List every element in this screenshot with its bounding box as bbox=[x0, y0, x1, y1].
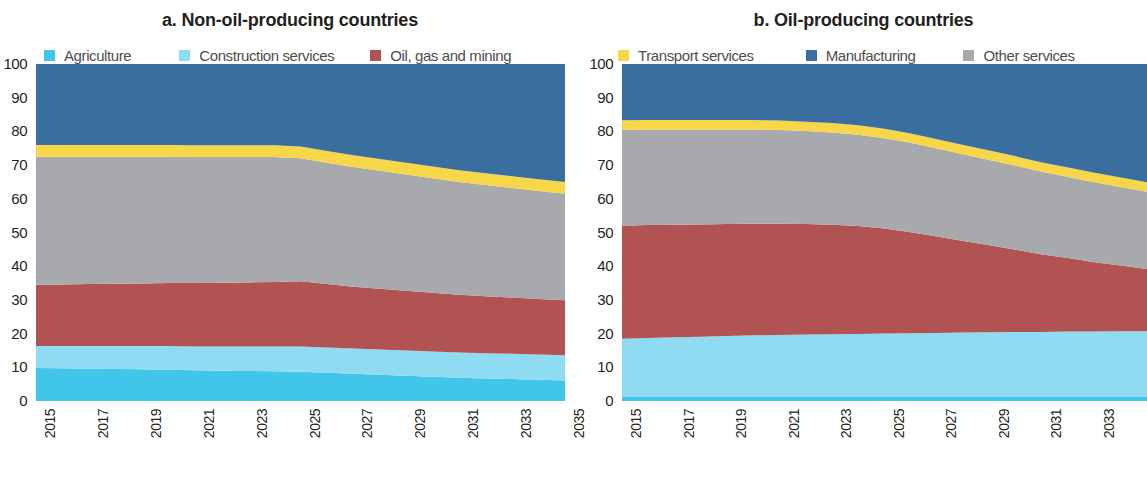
legend-item-construction-services: Construction services bbox=[179, 47, 334, 64]
y-tick-label: 50 bbox=[11, 228, 27, 238]
legend-swatch-transport-services bbox=[618, 50, 629, 61]
y-tick-label: 100 bbox=[3, 59, 27, 69]
x-tick-label: 2015 bbox=[42, 409, 58, 438]
stacked-area-svg bbox=[622, 64, 1147, 401]
legend-item-oil-gas-and-mining: Oil, gas and mining bbox=[370, 47, 511, 64]
legend-swatch-other-services bbox=[963, 50, 974, 61]
x-tick-label: 2033 bbox=[1101, 409, 1117, 438]
x-tick-label: 2021 bbox=[201, 409, 217, 438]
panel-b-oil-producing: b. Oil-producing countries Transport ser… bbox=[580, 0, 1147, 504]
figure-container: a. Non-oil-producing countries Agricultu… bbox=[0, 0, 1147, 504]
y-tick-label: 80 bbox=[597, 126, 613, 136]
y-tick-label: 30 bbox=[11, 295, 27, 305]
panel-a-legend: AgricultureConstruction servicesOil, gas… bbox=[0, 34, 580, 64]
panel-b-x-axis: 2015201720192021202320252027202920312033… bbox=[622, 405, 1147, 465]
y-tick-label: 80 bbox=[11, 126, 27, 136]
y-tick-label: 90 bbox=[11, 93, 27, 103]
y-tick-label: 60 bbox=[11, 194, 27, 204]
x-tick-label: 2029 bbox=[412, 409, 428, 438]
x-tick-label: 2021 bbox=[786, 409, 802, 438]
x-tick-label: 2027 bbox=[359, 409, 375, 438]
legend-item-other-services: Other services bbox=[963, 47, 1074, 64]
y-tick-label: 20 bbox=[11, 329, 27, 339]
x-tick-label: 2025 bbox=[307, 409, 323, 438]
x-tick-label: 2019 bbox=[733, 409, 749, 438]
panel-b-y-axis: 0102030405060708090100 bbox=[586, 64, 618, 401]
x-tick-label: 2023 bbox=[254, 409, 270, 438]
legend-swatch-agriculture bbox=[44, 50, 55, 61]
x-tick-label: 2027 bbox=[943, 409, 959, 438]
x-tick-label: 2031 bbox=[465, 409, 481, 438]
x-tick-label: 2023 bbox=[838, 409, 854, 438]
panel-b-legend: Transport servicesManufacturingOther ser… bbox=[580, 34, 1147, 64]
legend-item-transport-services: Transport services bbox=[618, 47, 754, 64]
area-agriculture bbox=[622, 397, 1147, 401]
legend-label-manufacturing: Manufacturing bbox=[826, 47, 916, 64]
legend-label-transport-services: Transport services bbox=[638, 47, 754, 64]
x-tick-label: 2017 bbox=[681, 409, 697, 438]
y-tick-label: 0 bbox=[19, 396, 27, 406]
x-tick-label: 2029 bbox=[996, 409, 1012, 438]
legend-swatch-construction-services bbox=[179, 50, 190, 61]
y-tick-label: 10 bbox=[597, 362, 613, 372]
y-tick-label: 40 bbox=[11, 261, 27, 271]
legend-swatch-manufacturing bbox=[806, 50, 817, 61]
panel-a-x-axis: 2015201720192021202320252027202920312033… bbox=[36, 405, 565, 465]
legend-item-agriculture: Agriculture bbox=[44, 47, 131, 64]
y-tick-label: 30 bbox=[597, 295, 613, 305]
panel-a-non-oil-producing: a. Non-oil-producing countries Agricultu… bbox=[0, 0, 580, 504]
y-tick-label: 20 bbox=[597, 329, 613, 339]
x-tick-label: 2033 bbox=[518, 409, 534, 438]
panel-b-plot-area bbox=[622, 64, 1147, 401]
panel-a-plot-wrap: 0102030405060708090100 20152017201920212… bbox=[0, 64, 580, 454]
panel-a-y-axis: 0102030405060708090100 bbox=[0, 64, 32, 401]
legend-swatch-oil-gas-and-mining bbox=[370, 50, 381, 61]
y-tick-label: 70 bbox=[597, 160, 613, 170]
legend-label-oil-gas-and-mining: Oil, gas and mining bbox=[390, 47, 511, 64]
y-tick-label: 70 bbox=[11, 160, 27, 170]
y-tick-label: 40 bbox=[597, 261, 613, 271]
x-tick-label: 2015 bbox=[628, 409, 644, 438]
panel-b-plot-wrap: 0102030405060708090100 20152017201920212… bbox=[580, 64, 1147, 454]
y-tick-label: 60 bbox=[597, 194, 613, 204]
stacked-area-svg bbox=[36, 64, 565, 401]
area-construction-services bbox=[622, 331, 1147, 397]
legend-label-agriculture: Agriculture bbox=[64, 47, 131, 64]
x-tick-label: 2019 bbox=[148, 409, 164, 438]
y-tick-label: 10 bbox=[11, 362, 27, 372]
y-tick-label: 0 bbox=[605, 396, 613, 406]
y-tick-label: 50 bbox=[597, 228, 613, 238]
panel-a-title: a. Non-oil-producing countries bbox=[0, 0, 580, 34]
x-tick-label: 2017 bbox=[95, 409, 111, 438]
x-tick-label: 2025 bbox=[891, 409, 907, 438]
y-tick-label: 100 bbox=[589, 59, 613, 69]
legend-label-construction-services: Construction services bbox=[199, 47, 334, 64]
x-tick-label: 2031 bbox=[1048, 409, 1064, 438]
panel-a-plot-area bbox=[36, 64, 565, 401]
legend-item-manufacturing: Manufacturing bbox=[806, 47, 916, 64]
y-tick-label: 90 bbox=[597, 93, 613, 103]
legend-label-other-services: Other services bbox=[983, 47, 1074, 64]
panel-b-title: b. Oil-producing countries bbox=[580, 0, 1147, 34]
